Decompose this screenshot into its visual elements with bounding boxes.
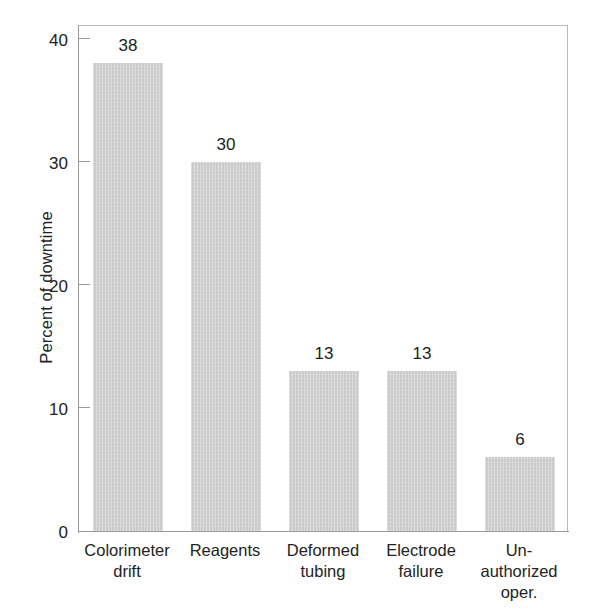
y-axis-tick-label: 20: [28, 278, 68, 295]
x-axis-category-label: Colorimeterdrift: [78, 540, 176, 582]
bar-value-label: 13: [382, 345, 462, 362]
x-axis-category-line: oper.: [470, 582, 568, 603]
x-axis-category-label: Deformedtubing: [274, 540, 372, 582]
x-axis-category-label: Electrodefailure: [372, 540, 470, 582]
y-axis-tick-label: 30: [28, 155, 68, 172]
x-axis-category-line: Deformed: [274, 540, 372, 561]
y-axis-tick: [79, 161, 90, 162]
y-axis-tick-label: 0: [28, 524, 68, 541]
y-axis-tick: [79, 407, 90, 408]
plot-area: 383013136: [78, 25, 568, 532]
bar: [191, 162, 261, 531]
bar: [387, 371, 457, 531]
y-axis-tick-label: 10: [28, 401, 68, 418]
bar-chart-figure: Percent of downtime 010203040 383013136 …: [0, 0, 591, 613]
bar-value-label: 38: [88, 37, 168, 54]
y-axis-tick: [79, 284, 90, 285]
x-axis-category-line: Electrode: [372, 540, 470, 561]
x-axis-category-line: authorized: [470, 561, 568, 582]
x-axis-category-line: failure: [372, 561, 470, 582]
bar: [93, 63, 163, 531]
y-axis-tick-label: 40: [28, 32, 68, 49]
x-axis-category-line: drift: [78, 561, 176, 582]
x-axis-category-label: Un-authorizedoper.: [470, 540, 568, 603]
x-axis-category-label: Reagents: [176, 540, 274, 561]
bar: [289, 371, 359, 531]
x-axis-category-line: tubing: [274, 561, 372, 582]
bar-value-label: 30: [186, 136, 266, 153]
bar-value-label: 13: [284, 345, 364, 362]
bar-value-label: 6: [480, 431, 560, 448]
x-axis-category-line: Un-: [470, 540, 568, 561]
bar: [485, 457, 555, 531]
x-axis-category-line: Reagents: [176, 540, 274, 561]
x-axis-category-line: Colorimeter: [78, 540, 176, 561]
